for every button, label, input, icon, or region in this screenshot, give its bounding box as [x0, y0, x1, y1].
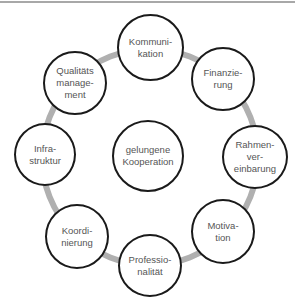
node-kommunikation: Kommuni- kation: [117, 14, 184, 81]
node-center-gelungene-kooperation: gelungene Kooperation: [112, 120, 184, 192]
node-label: gelungene Kooperation: [122, 144, 173, 168]
node-label: Infra- struktur: [29, 143, 61, 167]
node-label: Motiva- tion: [207, 220, 238, 244]
node-motivation: Motiva- tion: [191, 199, 255, 264]
node-finanzierung: Finanzie- rung: [191, 47, 255, 111]
node-label: Rahmen- ver- einbarung: [234, 139, 276, 175]
node-label: Koordi- nierung: [61, 225, 93, 249]
node-label: Kommuni- kation: [129, 36, 172, 60]
node-koordinierung: Koordi- nierung: [45, 204, 109, 269]
node-qualitaetsmanagement: Qualitäts manage- ment: [43, 51, 107, 115]
node-professionalitaet: Professio- nalität: [118, 234, 182, 297]
node-label: Qualitäts manage- ment: [56, 65, 94, 101]
node-infrastruktur: Infra- struktur: [14, 123, 76, 186]
node-rahmenvereinbarung: Rahmen- ver- einbarung: [222, 125, 288, 189]
node-label: Professio- nalität: [129, 254, 172, 278]
node-label: Finanzie- rung: [203, 67, 242, 91]
